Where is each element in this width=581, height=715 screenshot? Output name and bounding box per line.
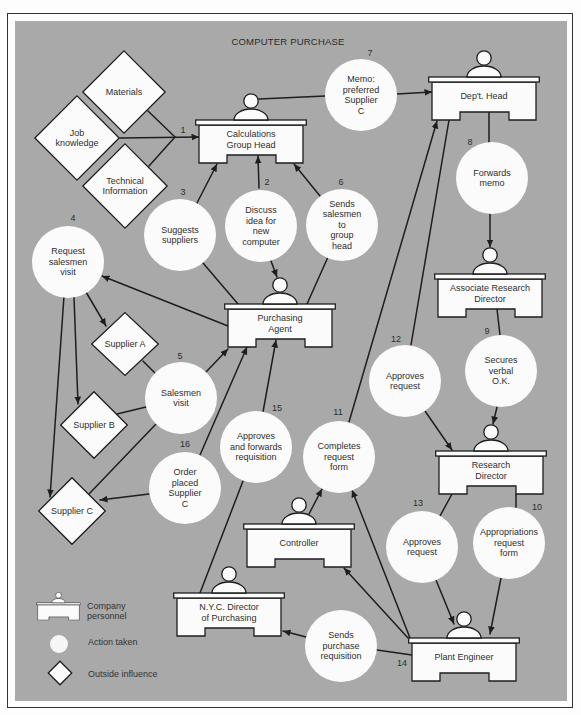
action-appropriations-request-form: Appropriations request form — [473, 507, 545, 579]
action-label: Approves request — [403, 537, 441, 558]
step-number: 9 — [484, 326, 489, 336]
action-salesmen-visit: Salesmen visit — [145, 362, 217, 434]
step-number: 15 — [272, 403, 282, 413]
action-label: Order placed Supplier C — [168, 467, 201, 509]
action-label: Discuss idea for new computer — [242, 205, 280, 247]
edge-approves-forwards-to-purchasing — [263, 340, 276, 412]
step-number: 16 — [180, 439, 190, 449]
legend-desk-symbol — [36, 592, 81, 621]
edge-job-knowledge-to-calc-head — [120, 137, 199, 138]
legend-label-action: Action taken — [88, 637, 138, 647]
action-memo-preferred-supplier: Memo: preferred Supplier C — [325, 59, 397, 131]
influence-label: Supplier A — [91, 312, 159, 376]
step-number: 7 — [367, 48, 372, 58]
personnel-label: Research Director — [439, 456, 543, 485]
action-label: Approves and forwards requisition — [230, 431, 282, 463]
edge-research-director-to-approves-13 — [440, 494, 452, 516]
personnel-purchasing-agent: Purchasing Agent — [224, 277, 336, 348]
personnel-calculations-group-head: Calculations Group Head — [195, 93, 307, 164]
action-label: Forwards memo — [473, 168, 511, 189]
figure-canvas: COMPUTER PURCHASE 1 Materials Job knowle… — [0, 0, 581, 715]
personnel-controller: Controller — [243, 497, 355, 568]
step-number: 2 — [264, 177, 269, 187]
personnel-label: Controller — [247, 529, 351, 558]
action-approves-request-13: Approves request — [386, 511, 458, 583]
action-sends-purchase-requisition: Sends purchase requisition — [305, 610, 377, 682]
diagram-title: COMPUTER PURCHASE — [188, 36, 388, 47]
personnel-label: Calculations Group Head — [199, 125, 303, 154]
edge-salesmen-to-purchasing — [206, 349, 228, 372]
step-number: 6 — [338, 177, 343, 187]
action-approves-request-12: Approves request — [369, 345, 441, 417]
action-label: Memo: preferred Supplier C — [343, 74, 380, 116]
step-number: 4 — [70, 213, 75, 223]
legend-circle-symbol — [50, 635, 68, 653]
step-number: 14 — [397, 658, 407, 668]
action-label: Approves request — [386, 371, 424, 392]
personnel-label: Plant Engineer — [412, 643, 516, 672]
action-label: Secures verbal O.K. — [484, 355, 517, 387]
edge-suggests-to-calc-head — [197, 164, 217, 203]
action-secures-verbal-ok: Secures verbal O.K. — [465, 335, 537, 407]
action-order-placed-supplier-c: Order placed Supplier C — [149, 452, 221, 524]
edge-memo-to-dept-head — [397, 92, 432, 94]
edge-secures-to-research-director — [493, 407, 497, 424]
edge-plant-engineer-to-sends-requisition — [377, 650, 412, 655]
edge-sends-salesmen-to-calc-head — [294, 164, 320, 196]
action-forwards-memo: Forwards memo — [456, 142, 528, 214]
personnel-research-director: Research Director — [435, 424, 547, 495]
legend-label-personnel: Company personnel — [87, 601, 127, 621]
step-number-1: 1 — [180, 125, 185, 135]
action-label: Sends salesmen to group head — [323, 199, 362, 252]
influence-label: Supplier C — [38, 477, 106, 545]
desk-person-icon — [36, 592, 81, 621]
action-label: Completes request form — [317, 441, 360, 473]
personnel-plant-engineer: Plant Engineer — [408, 611, 520, 682]
step-number: 13 — [413, 498, 423, 508]
personnel-label: Associate Research Director — [438, 279, 542, 308]
personnel-dept-head: Dep't. Head — [428, 50, 540, 121]
action-suggests-suppliers: Suggests suppliers — [144, 199, 216, 271]
influence-label: Supplier B — [60, 391, 128, 459]
action-discuss-idea: Discuss idea for new computer — [225, 190, 297, 262]
influence-supplier-c: Supplier C — [38, 477, 106, 545]
personnel-nyc-director-of-purchasing: N.Y.C. Director of Purchasing — [173, 566, 285, 637]
action-sends-salesmen-to-group-head: Sends salesmen to group head — [306, 189, 378, 261]
action-label: Request salesmen visit — [49, 246, 88, 278]
action-request-salesmen-visit: Request salesmen visit — [32, 226, 104, 298]
action-label: Suggests suppliers — [161, 225, 199, 246]
step-number: 10 — [532, 502, 542, 512]
personnel-label: N.Y.C. Director of Purchasing — [177, 598, 281, 627]
edge-request-to-supplier-b — [74, 297, 78, 404]
action-completes-request-form: Completes request form — [303, 421, 375, 493]
action-label: Appropriations request form — [480, 527, 538, 559]
personnel-label: Purchasing Agent — [228, 309, 332, 338]
step-number: 12 — [391, 334, 401, 344]
influence-supplier-a: Supplier A — [91, 312, 159, 376]
edge-order-to-supplier-c — [100, 494, 149, 500]
edge-discuss-to-purchasing — [271, 261, 277, 277]
step-number: 5 — [177, 351, 182, 361]
step-number: 3 — [180, 187, 185, 197]
personnel-label: Dep't. Head — [432, 82, 536, 111]
legend-label-influence: Outside influence — [88, 669, 158, 679]
diamond-icon — [48, 661, 72, 685]
action-approves-and-forwards-requisition: Approves and forwards requisition — [220, 411, 292, 483]
action-label: Salesmen visit — [161, 388, 201, 409]
step-number: 11 — [333, 407, 342, 417]
influence-supplier-b: Supplier B — [60, 391, 128, 459]
personnel-associate-research-director: Associate Research Director — [434, 247, 546, 318]
legend-diamond-symbol — [48, 661, 72, 685]
edge-sends-requisition-to-nyc — [283, 631, 306, 637]
step-number: 8 — [467, 137, 472, 147]
action-label: Sends purchase requisition — [320, 630, 361, 662]
